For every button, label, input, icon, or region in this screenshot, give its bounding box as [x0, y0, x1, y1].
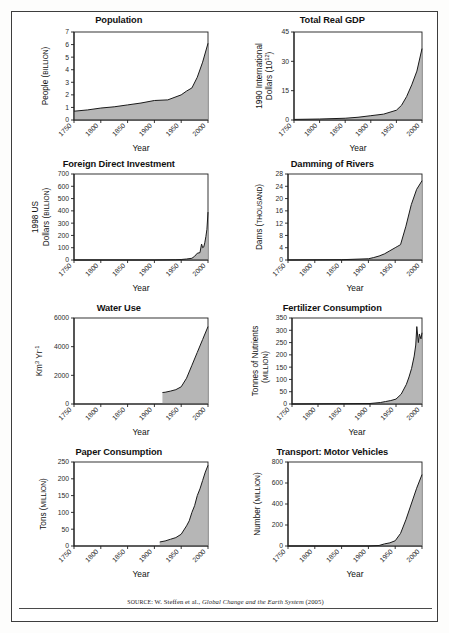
x-axis-label: Year [133, 143, 150, 153]
x-tick-label: 1850 [111, 262, 127, 278]
y-tick-label: 300 [58, 220, 70, 227]
y-tick-label: 800 [271, 458, 283, 465]
panel-grid: Population012345671750180018501900195020… [12, 12, 439, 588]
y-axis-label-line2: Dollars (1012) [264, 51, 274, 100]
y-axis-label: 1998 US [31, 201, 40, 233]
x-tick-label: 1850 [111, 122, 127, 138]
y-tick-label: 150 [58, 492, 70, 499]
chart-panel-4: Damming of Rivers04812162024281750180018… [226, 156, 440, 300]
x-tick-label: 1750 [57, 122, 73, 138]
y-axis-label: Tonnes of Nutrients [251, 326, 260, 397]
y-tick-label: 4 [279, 244, 283, 251]
x-tick-label: 2000 [191, 406, 207, 422]
x-tick-label: 1850 [111, 548, 127, 564]
x-tick-label: 1750 [57, 548, 73, 564]
x-tick-label: 1950 [164, 406, 180, 422]
x-tick-label: 1950 [378, 548, 394, 564]
x-tick-label: 1900 [353, 122, 369, 138]
figure-root: Population012345671750180018501900195020… [0, 0, 449, 633]
x-tick-label: 1900 [351, 262, 367, 278]
y-tick-label: 16 [275, 207, 283, 214]
plot-area: 050100150200250175018001850190019502000Y… [12, 444, 226, 588]
x-tick-label: 1900 [351, 548, 367, 564]
y-tick-label: 200 [58, 232, 70, 239]
y-tick-label: 700 [58, 170, 70, 177]
y-axis-label: 1990 International [255, 43, 264, 109]
x-tick-label: 1950 [164, 122, 180, 138]
source-citation: SOURCE: W. Steffen et al., Global Change… [12, 598, 439, 605]
x-tick-label: 1800 [302, 122, 318, 138]
y-tick-label: 7 [65, 28, 69, 35]
chart-panel-6: Fertilizer Consumption050100150200250300… [226, 300, 440, 444]
x-axis-label: Year [133, 569, 150, 579]
y-tick-label: 250 [275, 339, 287, 346]
y-tick-label: 150 [275, 364, 287, 371]
x-tick-label: 1800 [297, 548, 313, 564]
y-tick-label: 200 [58, 475, 70, 482]
y-tick-label: 350 [275, 314, 287, 321]
y-tick-label: 50 [279, 388, 287, 395]
source-divider [19, 608, 432, 609]
y-tick-label: 600 [58, 183, 70, 190]
x-tick-label: 1800 [297, 262, 313, 278]
y-axis-label-line2: (MILLION) [261, 351, 270, 383]
x-tick-label: 1950 [379, 406, 395, 422]
y-tick-label: 100 [58, 244, 70, 251]
x-tick-label: 1950 [379, 122, 395, 138]
y-tick-label: 15 [281, 87, 289, 94]
y-tick-label: 400 [58, 207, 70, 214]
x-axis-label: Year [133, 283, 150, 293]
y-tick-label: 2 [65, 91, 69, 98]
chart-panel-1: Population012345671750180018501900195020… [12, 12, 226, 156]
chart-panel-8: Transport: Motor Vehicles020040060080017… [226, 444, 440, 588]
x-tick-label: 1750 [277, 122, 293, 138]
figure-border: Population012345671750180018501900195020… [11, 11, 438, 622]
y-tick-label: 4000 [54, 343, 69, 350]
y-tick-label: 400 [271, 500, 283, 507]
x-tick-label: 1900 [137, 122, 153, 138]
x-tick-label: 2000 [405, 122, 421, 138]
y-tick-label: 600 [271, 479, 283, 486]
y-tick-label: 100 [275, 376, 287, 383]
x-tick-label: 1800 [84, 548, 100, 564]
x-tick-label: 1750 [57, 406, 73, 422]
x-tick-label: 1950 [164, 548, 180, 564]
x-tick-label: 2000 [191, 122, 207, 138]
x-tick-label: 1800 [84, 122, 100, 138]
chart-panel-7: Paper Consumption05010015020025017501800… [12, 444, 226, 588]
x-tick-label: 2000 [405, 262, 421, 278]
chart-panel-3: Foreign Direct Investment010020030040050… [12, 156, 226, 300]
source-year: (2005) [304, 598, 324, 605]
y-tick-label: 8 [279, 232, 283, 239]
y-tick-label: 50 [61, 526, 69, 533]
source-title: Global Change and the Earth System [202, 598, 304, 605]
x-tick-label: 1850 [324, 262, 340, 278]
x-tick-label: 2000 [191, 262, 207, 278]
chart-panel-2: Total Real GDP01530451750180018501900195… [226, 12, 440, 156]
y-tick-label: 12 [275, 220, 283, 227]
x-tick-label: 1750 [271, 548, 287, 564]
x-tick-label: 1950 [378, 262, 394, 278]
y-axis-label: Number (MILLION) [253, 472, 262, 536]
plot-area: 0200040006000175018001850190019502000Yea… [12, 300, 226, 444]
x-tick-label: 2000 [405, 406, 421, 422]
plot-frame [74, 174, 208, 260]
y-tick-label: 200 [275, 351, 287, 358]
y-axis-label: Tons (MILLION) [39, 478, 48, 530]
y-tick-label: 1 [65, 104, 69, 111]
y-tick-label: 100 [58, 509, 70, 516]
y-tick-label: 28 [275, 170, 283, 177]
plot-area: 0481216202428175018001850190019502000Yea… [226, 156, 440, 300]
y-axis-label: Km3 Yr-1 [34, 346, 44, 377]
y-tick-label: 200 [271, 521, 283, 528]
x-axis-label: Year [349, 143, 366, 153]
y-tick-label: 300 [275, 327, 287, 334]
x-tick-label: 1850 [328, 122, 344, 138]
y-axis-label: Dams (THOUSAND) [255, 184, 264, 250]
x-tick-label: 1950 [164, 262, 180, 278]
x-tick-label: 2000 [405, 548, 421, 564]
y-tick-label: 24 [275, 183, 283, 190]
x-tick-label: 1750 [271, 262, 287, 278]
x-tick-label: 1750 [275, 406, 291, 422]
chart-panel-5: Water Use0200040006000175018001850190019… [12, 300, 226, 444]
